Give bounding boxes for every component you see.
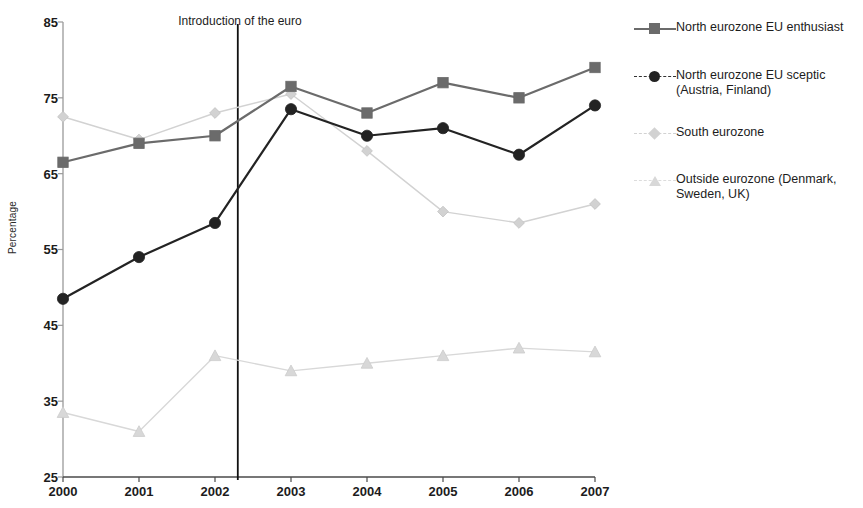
data-point (133, 251, 144, 262)
x-tick-label: 2001 (109, 484, 169, 499)
data-point (589, 100, 600, 111)
legend-item-outside-eurozone[interactable]: Outside eurozone (Denmark, Sweden, UK) (634, 172, 837, 202)
data-point (361, 130, 372, 141)
y-axis-title: Percentage (7, 188, 18, 268)
legend-label: Outside eurozone (Denmark, Sweden, UK) (676, 172, 837, 202)
x-tick-label: 2004 (337, 484, 397, 499)
line-chart: 85 75 65 55 45 35 25 2000 2001 2002 2003… (0, 0, 863, 508)
data-point (362, 108, 372, 118)
data-point (209, 217, 220, 228)
data-point (57, 407, 69, 418)
y-tick-label: 75 (22, 91, 58, 106)
y-tick-label: 55 (22, 242, 58, 257)
diamond-marker-icon (634, 127, 676, 141)
data-point (590, 62, 600, 72)
x-tick-label: 2007 (565, 484, 625, 499)
y-tick-label: 25 (22, 470, 58, 485)
legend-item-north-enthusiast[interactable]: North eurozone EU enthusiast (634, 20, 843, 36)
data-point (514, 218, 525, 229)
data-point (438, 77, 448, 87)
y-tick-label: 45 (22, 318, 58, 333)
y-tick-label: 65 (22, 167, 58, 182)
legend-item-north-sceptic[interactable]: North eurozone EU sceptic (Austria, Finl… (634, 68, 825, 98)
data-point (513, 149, 524, 160)
legend-label: North eurozone EU enthusiast (676, 20, 843, 35)
x-tick-label: 2000 (33, 484, 93, 499)
legend-item-south-eurozone[interactable]: South eurozone (634, 125, 764, 141)
chart-series (57, 100, 600, 305)
data-point (590, 199, 601, 210)
data-point (134, 138, 144, 148)
chart-series (57, 342, 601, 436)
legend-label: North eurozone EU sceptic (Austria, Finl… (676, 68, 825, 98)
triangle-marker-icon (634, 174, 676, 188)
data-point (210, 131, 220, 141)
data-point (286, 81, 296, 91)
data-point (209, 350, 221, 361)
data-point (514, 93, 524, 103)
x-tick-label: 2002 (185, 484, 245, 499)
square-marker-icon (634, 22, 676, 36)
data-point (437, 123, 448, 134)
circle-marker-icon (634, 70, 676, 84)
x-tick-label: 2006 (489, 484, 549, 499)
data-point (210, 108, 221, 119)
data-point (58, 157, 68, 167)
data-point (57, 293, 68, 304)
x-tick-label: 2003 (261, 484, 321, 499)
x-tick-label: 2005 (413, 484, 473, 499)
legend-label: South eurozone (676, 125, 764, 140)
euro-introduction-annotation: Introduction of the euro (150, 14, 330, 28)
data-point (285, 104, 296, 115)
data-point (58, 111, 69, 122)
y-tick-label: 35 (22, 394, 58, 409)
y-tick-label: 85 (22, 15, 58, 30)
